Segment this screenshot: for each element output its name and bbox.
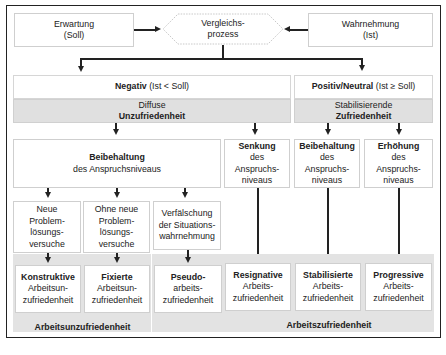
lower-level-line2: des [250,152,264,164]
arrow-left-icon [284,26,290,32]
connector [80,58,82,66]
positive-box: Positiv/Neutral (Ist ≥ Soll) [294,75,433,99]
comparison-label: Vergleichs- prozess [162,13,284,45]
strategy-box-distortion: Verfälschung der Situations- wahrnehmung [153,201,221,250]
lower-level-box: Senkung des Anspruchs- niveaus [224,139,290,188]
perception-box: Wahrnehmung (Ist) [308,13,433,47]
comparison-line1: Vergleichs- [201,18,245,30]
keep-level-positive-line4: niveaus [312,175,342,187]
dissatisfaction-label: Arbeitsunzufriedenheit [15,322,150,332]
connector [257,188,259,258]
connector [80,58,362,60]
raise-level-box: Erhöhung des Anspruchs- niveaus [364,139,433,188]
negative-sub-line2: Unzufriedenheit [119,111,185,123]
negative-box: Negativ (Ist < Soll) [13,75,291,99]
arrow-down-icon [45,192,51,198]
outcome-progressive: Progressive Arbeits- zufriedenheit [365,263,432,311]
negative-sub-line1: Diffuse [138,100,165,112]
connector [327,188,329,258]
negative-subbox: Diffuse Unzufriedenheit [13,99,291,123]
outcome-line: zufriedenheit [303,293,353,305]
connector [222,45,224,58]
raise-level-line2: des [391,152,405,164]
arrow-down-icon [78,66,84,72]
outcome-line: zufriedenheit [233,293,283,305]
expectation-box: Erwartung (Soll) [14,13,134,47]
lower-level-line4: niveaus [242,175,272,187]
outcome-line: zufriedenheit [92,295,142,307]
outcome-line: Arbeits- [383,281,413,293]
outcome-constructive: Konstruktive Arbeitsun- zufriedenheit [15,265,81,313]
keep-level-negative-box: Beibehaltung des Anspruchsniveaus [13,139,221,188]
comparison-line2: prozess [208,29,239,41]
satisfaction-label: Arbeitszufriedenheit [225,320,433,330]
outcome-title: Progressive [373,270,423,282]
keep-level-positive-title: Beibehaltung [299,141,355,153]
outcome-line: Arbeitsun- [97,283,137,295]
negative-condition: (Ist < Soll) [147,81,189,91]
expectation-line2: (Soll) [64,30,85,42]
strategy-line: Verfälschung [162,208,213,220]
arrow-down-icon [325,129,331,135]
connector [361,58,363,65]
outcome-line: zufriedenheit [23,295,73,307]
raise-level-line4: niveaus [383,175,413,187]
negative-title: Negativ [115,81,147,91]
positive-subbox: Stabilisierende Zufriedenheit [294,99,433,123]
strategy-line: Neue [36,204,57,216]
outcome-line: Arbeits- [243,281,273,293]
keep-level-positive-line2: des [320,152,334,164]
outcome-fixated: Fixierte Arbeitsun- zufriedenheit [84,265,150,313]
outcome-line: zufriedenheit [373,293,423,305]
outcome-title: Resignative [233,270,282,282]
outcome-line: Arbeits- [313,281,343,293]
arrow-down-icon [182,192,188,198]
lower-level-line3: Anspruchs- [235,164,280,176]
arrow-down-icon [114,192,120,198]
keep-level-negative-text: des Anspruchsniveaus [73,164,161,176]
strategy-line: lösungs- [30,227,63,239]
raise-level-title: Erhöhung [378,141,420,153]
connector [398,188,400,258]
strategy-line: Problem- [99,216,135,228]
arrow-down-icon [45,257,51,263]
lower-level-title: Senkung [238,141,275,153]
keep-level-positive-line3: Anspruchs- [305,164,350,176]
strategy-line: der Situations- [159,220,216,232]
keep-level-negative-title: Beibehaltung [89,152,145,164]
positive-title: Positiv/Neutral [312,81,374,91]
strategy-box-new-attempts: Neue Problem- lösungs- versuche [13,201,81,253]
keep-level-positive-box: Beibehaltung des Anspruchs- niveaus [294,139,360,188]
positive-condition: (Ist ≥ Soll) [373,81,415,91]
arrow-down-icon [396,129,402,135]
outcome-title: Konstruktive [21,272,75,284]
arrow-down-icon [359,65,365,71]
outcome-stabilized: Stabilisierte Arbeits- zufriedenheit [295,263,361,311]
strategy-line: lösungs- [100,227,133,239]
positive-sub-line2: Zufriedenheit [336,111,392,123]
outcome-title: Pseudo- [171,272,206,284]
expectation-line1: Erwartung [54,19,94,31]
arrow-down-icon [185,257,191,263]
outcome-resignative: Resignative Arbeits- zufriedenheit [225,263,291,311]
strategy-line: versuche [29,239,65,251]
connector [134,29,156,31]
arrow-right-icon [155,26,161,32]
strategy-line: Problem- [29,216,65,228]
arrow-down-icon [114,257,120,263]
outcome-title: Fixierte [101,272,132,284]
outcome-pseudo: Pseudo- arbeits- zufriedenheit [154,265,222,313]
connector [290,29,308,31]
outcome-line: zufriedenheit [163,295,213,307]
arrow-down-icon [113,129,119,135]
raise-level-line3: Anspruchs- [376,164,421,176]
outcome-line: Arbeitsun- [28,283,68,295]
strategy-box-no-new-attempts: Ohne neue Problem- lösungs- versuche [83,201,150,253]
outcome-line: arbeits- [173,283,202,295]
outcome-title: Stabilisierte [303,270,353,282]
positive-sub-line1: Stabilisierende [335,100,393,112]
perception-line2: (Ist) [363,30,378,42]
strategy-line: wahrnehmung [159,231,215,243]
arrow-down-icon [252,129,258,135]
strategy-line: versuche [99,239,135,251]
